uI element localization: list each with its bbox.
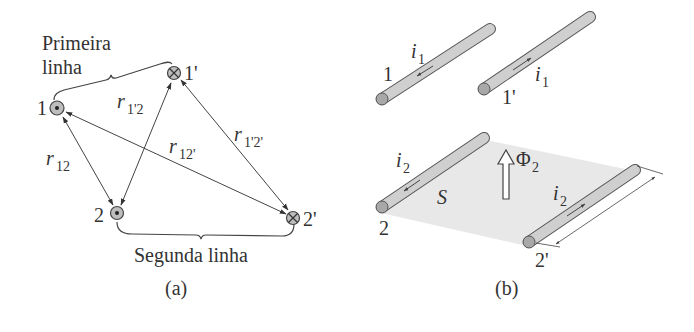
wire-2-label: 2 <box>379 217 389 239</box>
wire-1-prime-current-label: i 1 <box>535 63 549 90</box>
svg-text:i: i <box>396 149 402 171</box>
node-1-prime-label: 1' <box>184 62 198 84</box>
second-line-label: Segunda linha <box>134 244 248 267</box>
r12p-label: r 12' <box>169 135 196 162</box>
svg-text:1'2': 1'2' <box>244 135 263 150</box>
node-2-prime <box>287 212 300 225</box>
figure-b: i 1 1 i 1 1' i 2 2 i 2 2' S Φ 2 (b) <box>376 17 663 300</box>
svg-text:i: i <box>553 182 559 204</box>
dot-icon <box>55 106 59 110</box>
node-1-prime <box>168 67 181 80</box>
svg-text:12': 12' <box>179 147 196 162</box>
r12p-arrow <box>66 112 286 214</box>
caption-b: (b) <box>495 277 518 300</box>
svg-text:12: 12 <box>56 159 70 174</box>
svg-text:r: r <box>46 147 54 169</box>
wire-2-prime-label: 2' <box>535 249 549 271</box>
node-2 <box>111 207 124 220</box>
figure-a: 1 1' 2 2' Primeira linha Segunda linha r… <box>37 32 317 300</box>
node-1 <box>50 101 64 115</box>
svg-text:2: 2 <box>532 160 539 175</box>
svg-text:2: 2 <box>560 194 567 209</box>
r1p2p-label: r 1'2' <box>234 123 263 150</box>
wire-1-prime-label: 1' <box>502 86 516 108</box>
svg-text:r: r <box>234 123 242 145</box>
node-2-label: 2 <box>94 204 104 226</box>
svg-text:1: 1 <box>418 52 425 67</box>
svg-text:r: r <box>169 135 177 157</box>
r12-label: r 12 <box>46 147 70 174</box>
caption-a: (a) <box>165 277 187 300</box>
svg-text:i: i <box>411 40 417 62</box>
second-line-brace <box>117 222 294 239</box>
wire-1 <box>376 29 490 105</box>
wire-2-current-label: i 2 <box>396 149 410 176</box>
svg-text:1'2: 1'2 <box>127 102 144 117</box>
r1p2-label: r 1'2 <box>117 90 144 117</box>
surface-label: S <box>437 186 447 208</box>
svg-text:1: 1 <box>542 75 549 90</box>
svg-text:Φ: Φ <box>516 148 531 170</box>
wire-1-label: 1 <box>383 63 393 85</box>
svg-text:r: r <box>117 90 125 112</box>
svg-text:i: i <box>535 63 541 85</box>
wire-1-current-label: i 1 <box>411 40 425 67</box>
svg-text:2: 2 <box>403 161 410 176</box>
node-1-label: 1 <box>37 97 47 119</box>
first-line-label-2: linha <box>42 56 82 78</box>
node-2-prime-label: 2' <box>303 208 317 230</box>
figure-canvas: 1 1' 2 2' Primeira linha Segunda linha r… <box>0 0 694 332</box>
dot-icon <box>115 211 119 215</box>
first-line-label-1: Primeira <box>42 32 111 54</box>
